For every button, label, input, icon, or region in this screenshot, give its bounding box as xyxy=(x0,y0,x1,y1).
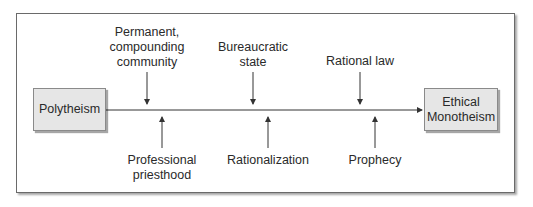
polytheism-label: Polytheism xyxy=(39,102,100,117)
ethical-monotheism-node: Ethical Monotheism xyxy=(424,88,498,131)
factor-label-community: Permanent, compounding community xyxy=(109,25,184,70)
factor-label-rational-law: Rational law xyxy=(326,54,394,69)
factor-label-bureaucratic-state: Bureaucratic state xyxy=(218,40,288,70)
factor-label-prophecy: Prophecy xyxy=(349,153,402,168)
factor-label-rationalization: Rationalization xyxy=(227,153,309,168)
polytheism-node: Polytheism xyxy=(33,88,106,131)
ethical-monotheism-label: Ethical Monotheism xyxy=(427,95,495,125)
factor-label-professional-priesthood: Professional priesthood xyxy=(128,153,197,183)
